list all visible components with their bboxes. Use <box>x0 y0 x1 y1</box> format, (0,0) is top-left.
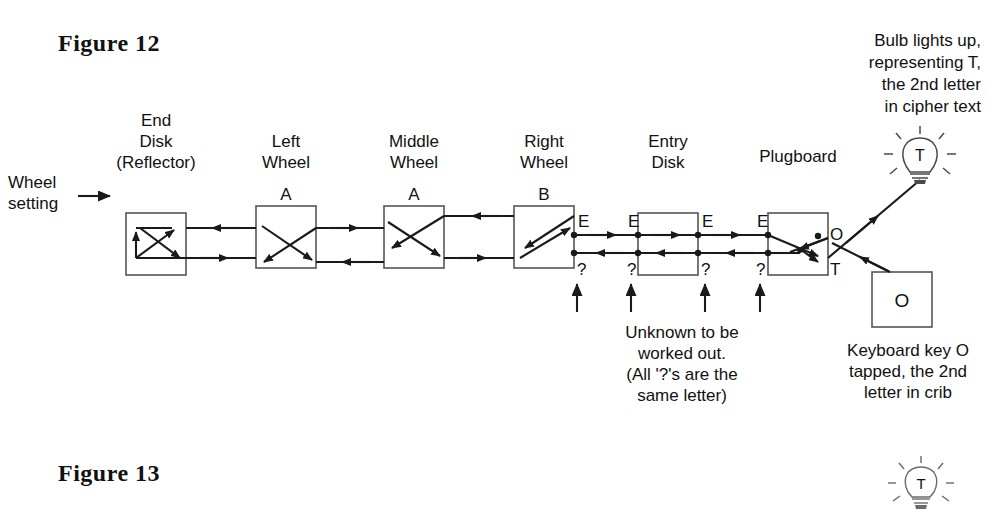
keyboard-key-letter: O <box>895 290 910 311</box>
top-letter-2: E <box>628 212 639 231</box>
reflector-wire-cross-down <box>140 228 180 258</box>
arrow-plugboard-to-bulb <box>846 216 878 243</box>
bottom-letter-4: ? <box>756 260 765 279</box>
middle-wheel-cross-b <box>388 222 440 256</box>
box-plugboard <box>768 213 828 275</box>
bottom-letter-3: ? <box>701 260 710 279</box>
arrow-keyboard-to-plugboard <box>860 257 888 271</box>
enigma-wiring-diagram: E E E E ? ? ? ? O T T T O <box>0 0 989 514</box>
box-middle-wheel <box>384 206 444 268</box>
top-letter-1: E <box>578 212 589 231</box>
bottom-letter-2: ? <box>627 260 636 279</box>
figure-page: Figure 12 Bulb lights up, representing T… <box>0 0 989 514</box>
top-letter-3: E <box>702 212 713 231</box>
box-entry-disk <box>638 213 698 275</box>
bottom-letter-1: ? <box>577 260 586 279</box>
wire-letter-labels: E E E E ? ? ? ? O T T T O <box>577 147 926 492</box>
left-wheel-cross-b <box>262 226 312 260</box>
bulb-letter-figure-13: T <box>916 475 925 492</box>
plugboard-wire-out-arrow <box>800 238 828 249</box>
right-wheel-cross-a <box>525 216 574 248</box>
box-left-wheel <box>256 206 316 268</box>
middle-wheel-cross-a <box>392 216 444 248</box>
plugboard-top-letter: O <box>830 225 843 244</box>
reflector-wire-cross-up <box>136 230 174 258</box>
box-right-wheel <box>514 206 574 268</box>
right-wheel-cross-b <box>520 228 570 258</box>
top-letter-4: E <box>757 212 768 231</box>
bulb-letter-figure-12: T <box>915 147 925 164</box>
plugboard-bottom-letter: T <box>830 260 840 279</box>
